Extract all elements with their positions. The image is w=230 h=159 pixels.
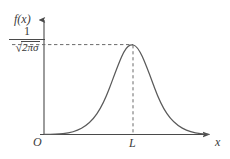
- origin-label: O: [33, 136, 42, 148]
- normal-density-curve: [45, 45, 210, 135]
- radical-group: √2πσ: [14, 41, 39, 54]
- normal-distribution-figure: f(x) 1 √2πσ O L x: [0, 0, 230, 159]
- peak-position-label: L: [129, 137, 136, 149]
- fraction-numerator: 1: [9, 25, 45, 39]
- radicand: 2πσ: [21, 41, 39, 53]
- peak-value-label: 1 √2πσ: [9, 25, 45, 54]
- fraction-denominator: √2πσ: [9, 40, 45, 54]
- x-axis-label: x: [215, 136, 220, 148]
